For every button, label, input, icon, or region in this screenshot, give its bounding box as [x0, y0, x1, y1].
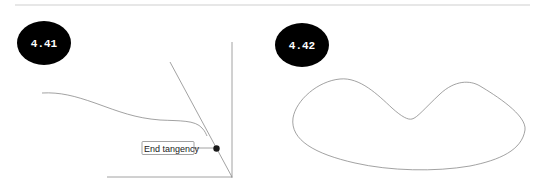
- closed-spline-shape: [293, 79, 525, 170]
- figure-number-label: 4.41: [31, 38, 58, 50]
- figure-4-42: 4.42: [275, 23, 525, 170]
- figure-canvas: 4.41 End tangency 4.42: [0, 0, 549, 195]
- callout-label: End tangency: [144, 144, 200, 154]
- end-tangency-point: [213, 145, 219, 151]
- figure-number-badge: 4.42: [275, 23, 329, 67]
- end-tangency-callout: End tangency: [142, 142, 200, 155]
- tangent-line: [170, 62, 232, 177]
- figure-number-label: 4.42: [289, 40, 315, 52]
- figure-4-41: 4.41 End tangency: [17, 21, 232, 178]
- spline-curve: [42, 93, 207, 136]
- figure-number-badge: 4.41: [17, 21, 71, 65]
